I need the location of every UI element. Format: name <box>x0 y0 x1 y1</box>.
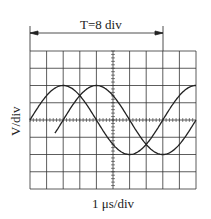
arrow-left-icon <box>30 31 38 35</box>
x-axis-label: 1 μs/div <box>92 196 134 212</box>
arrow-right-icon <box>155 31 163 35</box>
period-label: T=8 div <box>80 17 122 33</box>
grid <box>30 51 196 189</box>
y-axis-label: V/div <box>8 106 24 136</box>
